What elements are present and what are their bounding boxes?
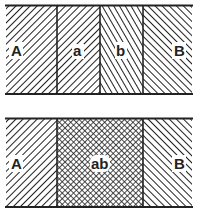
label-B-top: B: [174, 42, 185, 59]
label-A-bottom: A: [11, 155, 22, 172]
label-B-bottom: B: [174, 155, 185, 172]
label-A-top: A: [11, 42, 22, 59]
label-a: a: [73, 42, 82, 59]
label-b: b: [116, 42, 125, 59]
hatching-diagram: A a b B A ab B: [0, 0, 197, 220]
label-ab: ab: [91, 155, 109, 172]
bottom-panel: A ab B: [5, 118, 193, 207]
top-panel: A a b B: [5, 5, 193, 94]
